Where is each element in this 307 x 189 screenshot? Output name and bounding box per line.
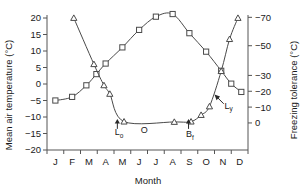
data-point-square <box>53 98 58 103</box>
data-point-triangle <box>71 15 77 21</box>
x-tick-label-f-1: F <box>69 156 75 167</box>
data-point-triangle <box>226 36 232 42</box>
data-point-square <box>187 31 192 36</box>
data-point-square <box>84 83 89 88</box>
y-tick-label-left: −5 <box>30 95 41 106</box>
y-tick-label-right: 0 <box>255 117 260 128</box>
data-point-square <box>103 61 108 66</box>
x-tick-label-j-5: J <box>137 156 142 167</box>
y-tick-label-right: −10 <box>255 102 271 113</box>
y-tick-label-left: 20 <box>30 12 41 23</box>
x-tick-label-a-3: A <box>102 156 109 167</box>
annotation-o-event: O <box>141 125 148 135</box>
x-axis-title: Month <box>135 175 161 186</box>
y-tick-label-right: −70 <box>255 12 271 23</box>
data-point-square <box>170 11 175 16</box>
y-tick-label-right: −50 <box>255 40 271 51</box>
annotation-label-lo-event: Lo <box>115 127 124 138</box>
data-point-square <box>204 49 209 54</box>
annotation-ly-event: Ly <box>215 95 234 114</box>
climate-freezing-tolerance-chart: −20−15−10−505101520 0−10−20−30−50−70 JFM… <box>0 0 307 189</box>
data-point-square <box>70 94 75 99</box>
data-point-triangle <box>91 61 97 67</box>
x-tick-label-s-8: S <box>186 156 192 167</box>
data-point-square <box>239 89 244 94</box>
y-tick-label-right: −30 <box>255 70 271 81</box>
y-tick-label-left: 15 <box>30 29 41 40</box>
annotation-label-o-event: O <box>141 125 148 135</box>
y-tick-label-left: 5 <box>36 62 41 73</box>
data-point-triangle <box>101 82 107 88</box>
right-axis: 0−10−20−30−50−70 <box>248 12 271 150</box>
data-point-square <box>229 81 234 86</box>
data-point-triangle <box>206 103 212 109</box>
y-tick-label-left: −15 <box>25 128 41 139</box>
x-tick-label-m-2: M <box>85 156 93 167</box>
y-tick-label-left: −20 <box>25 144 41 155</box>
data-point-triangle <box>121 119 127 125</box>
data-point-square <box>137 27 142 32</box>
data-point-square <box>153 14 158 19</box>
x-tick-label-a-7: A <box>169 156 176 167</box>
x-tick-label-d-11: D <box>236 156 243 167</box>
annotation-label-bf-event: Bf <box>186 129 194 140</box>
y-tick-label-left: 0 <box>36 78 41 89</box>
data-point-triangle <box>198 112 204 118</box>
data-series <box>53 11 244 124</box>
x-tick-label-j-0: J <box>53 156 58 167</box>
x-tick-label-o-9: O <box>202 156 209 167</box>
data-point-square <box>120 45 125 50</box>
y-tick-label-left: 10 <box>30 45 41 56</box>
y-axis-right-title: Freezing tolerance (°C) <box>288 41 299 139</box>
y-tick-label-right: −20 <box>255 86 271 97</box>
annotations: LoOBfLy <box>115 95 234 141</box>
figure-container: −20−15−10−505101520 0−10−20−30−50−70 JFM… <box>0 0 307 189</box>
x-tick-label-n-10: N <box>219 156 226 167</box>
x-tick-label-j-6: J <box>154 156 159 167</box>
data-point-triangle <box>235 15 241 21</box>
y-axis-left-title: Mean air temperature (°C) <box>3 40 14 150</box>
x-axis: JFMAMJJASOND <box>47 150 248 167</box>
series-freezing-tolerance <box>71 15 241 124</box>
data-point-triangle <box>107 91 113 97</box>
y-tick-label-left: −10 <box>25 111 41 122</box>
x-tick-label-m-4: M <box>118 156 126 167</box>
annotation-label-ly-event: Ly <box>225 101 234 113</box>
left-axis: −20−15−10−505101520 <box>25 12 47 155</box>
